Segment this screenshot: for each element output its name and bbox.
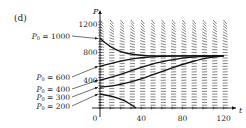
slope-mark: [181, 44, 186, 45]
x-tick-label: 0: [93, 114, 98, 123]
slope-mark: [212, 38, 217, 40]
slope-mark: [120, 44, 125, 45]
slope-mark: [161, 38, 166, 40]
slope-mark: [202, 41, 207, 42]
slope-mark: [151, 32, 156, 35]
slope-mark: [161, 29, 165, 32]
slope-mark: [150, 47, 155, 48]
slope-mark: [212, 41, 217, 42]
slope-mark: [212, 47, 217, 48]
slope-mark: [223, 35, 228, 37]
slope-mark: [150, 44, 155, 45]
slope-mark: [223, 38, 228, 40]
slope-mark: [213, 29, 217, 32]
slope-mark: [171, 35, 176, 37]
y-tick-label: 1200: [78, 20, 97, 29]
x-tick-label: 80: [178, 114, 188, 123]
slope-mark: [120, 32, 125, 35]
slope-mark: [130, 29, 134, 32]
slope-mark: [109, 38, 114, 40]
x-tick-label: 120: [216, 114, 231, 123]
slope-mark: [202, 35, 207, 37]
slope-mark: [161, 41, 166, 42]
slope-mark: [182, 32, 187, 35]
direction-field-chart: (d) 040801204008001200tP P0 = 1000P0 = 6…: [0, 0, 246, 128]
slope-mark: [171, 44, 176, 45]
slope-mark: [161, 47, 166, 48]
slope-mark: [140, 44, 145, 45]
slope-mark: [181, 41, 186, 42]
slope-mark: [130, 44, 135, 45]
slope-mark: [141, 29, 145, 32]
slope-mark: [202, 29, 206, 32]
slope-mark: [120, 29, 124, 32]
slope-mark: [171, 32, 176, 35]
slope-mark: [140, 38, 145, 40]
y-axis-label: P: [92, 7, 99, 16]
p-axis-arrow-icon: [98, 10, 102, 14]
slope-mark: [140, 47, 145, 48]
solution-curve-4: [100, 94, 136, 108]
slope-mark: [182, 29, 186, 32]
slope-mark: [120, 41, 125, 42]
slope-mark: [212, 35, 217, 37]
slope-mark: [171, 47, 176, 48]
slope-mark: [223, 29, 227, 32]
slope-mark: [130, 32, 135, 35]
slope-mark: [202, 32, 207, 35]
slope-mark: [223, 41, 228, 42]
initial-value-labels: P0 = 1000P0 = 600P0 = 400P0 = 300P0 = 20…: [31, 32, 98, 112]
slope-mark: [212, 44, 217, 45]
slope-mark: [120, 38, 125, 40]
slope-mark: [130, 35, 135, 37]
slope-mark: [150, 41, 155, 42]
slope-mark: [130, 38, 135, 40]
t-axis-arrow-icon: [232, 106, 236, 110]
slope-mark: [110, 29, 114, 32]
x-axis-label: t: [239, 106, 243, 115]
slope-mark: [120, 47, 125, 48]
slope-mark: [120, 35, 125, 37]
slope-mark: [223, 44, 228, 45]
initial-value-label: P0 = 1000: [31, 32, 71, 42]
slope-mark: [140, 32, 145, 35]
slope-mark: [171, 29, 175, 32]
slope-mark: [130, 41, 135, 42]
slope-mark: [151, 38, 156, 40]
slope-mark: [109, 44, 114, 45]
slope-field: [99, 20, 228, 108]
slope-mark: [192, 38, 197, 40]
slope-mark: [181, 38, 186, 40]
arrowhead-icon: [95, 87, 98, 89]
slope-mark: [182, 35, 187, 37]
solution-curves: [100, 39, 224, 108]
initial-value-label: P0 = 600: [35, 73, 70, 83]
slope-mark: [109, 35, 114, 37]
slope-mark: [223, 32, 228, 35]
slope-mark: [151, 29, 155, 32]
slope-mark: [202, 47, 207, 48]
slope-mark: [192, 41, 197, 42]
slope-mark: [140, 35, 145, 37]
slope-mark: [130, 47, 135, 48]
slope-mark: [171, 38, 176, 40]
slope-mark: [110, 32, 115, 35]
slope-mark: [192, 35, 197, 37]
slope-mark: [171, 41, 176, 42]
slope-mark: [192, 32, 197, 35]
slope-mark: [140, 41, 145, 42]
initial-value-label: P0 = 200: [35, 102, 70, 112]
slope-mark: [223, 47, 228, 48]
slope-mark: [202, 38, 207, 40]
label-arrow: [72, 36, 98, 39]
y-tick-label: 800: [83, 48, 98, 57]
slope-mark: [161, 44, 166, 45]
panel-label: (d): [14, 13, 27, 23]
slope-mark: [192, 44, 197, 45]
slope-mark: [192, 47, 197, 48]
slope-mark: [192, 29, 196, 32]
slope-mark: [109, 41, 114, 42]
slope-mark: [181, 47, 186, 48]
x-tick-label: 40: [136, 114, 146, 123]
slope-mark: [202, 44, 207, 45]
